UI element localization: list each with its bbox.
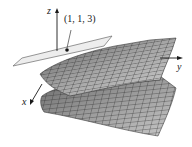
surface-diagram: [0, 0, 192, 147]
tangent-point-marker: [65, 48, 69, 52]
figure: z (1, 1, 3) y x: [0, 0, 192, 147]
point-label: (1, 1, 3): [64, 14, 96, 24]
point-leader-line: [67, 30, 71, 48]
x-axis-label: x: [22, 97, 26, 107]
z-axis: [55, 8, 59, 51]
y-axis-label: y: [177, 62, 181, 72]
x-axis: [30, 84, 42, 105]
z-axis-label: z: [47, 6, 51, 16]
